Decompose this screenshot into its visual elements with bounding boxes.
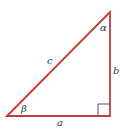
label-angle-beta: β — [20, 103, 27, 114]
right-triangle-diagram: c b a α β — [0, 0, 123, 129]
label-side-c: c — [47, 55, 53, 66]
label-side-a: a — [57, 117, 63, 128]
triangle-outline — [7, 12, 110, 116]
label-angle-alpha: α — [100, 22, 107, 33]
right-angle-marker — [98, 104, 110, 116]
label-side-b: b — [113, 65, 119, 76]
